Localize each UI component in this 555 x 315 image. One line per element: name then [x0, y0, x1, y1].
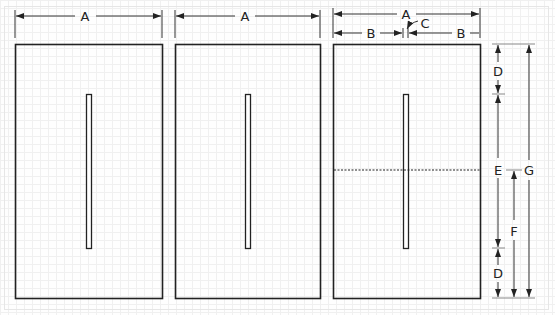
panel-3	[334, 45, 481, 299]
label-b-left: B	[367, 26, 376, 41]
label-b-right: B	[457, 26, 466, 41]
label-a-panel-1: A	[81, 9, 90, 24]
panel-2	[176, 45, 321, 299]
label-f: F	[510, 224, 517, 239]
diagram-canvas: A A A B B C D E F G D	[0, 0, 555, 315]
label-g: G	[524, 163, 534, 178]
dimension-drawing: A A A B B C D E F G D	[0, 0, 555, 315]
slot-2	[246, 95, 251, 249]
label-d-top: D	[493, 64, 503, 79]
label-e: E	[494, 163, 502, 178]
label-d-bottom: D	[493, 266, 503, 281]
slot-3	[404, 95, 409, 249]
label-a-panel-3: A	[402, 7, 411, 22]
label-c: C	[420, 16, 429, 31]
panel-1	[16, 45, 163, 299]
label-a-panel-2: A	[241, 9, 250, 24]
slot-1	[87, 95, 92, 249]
